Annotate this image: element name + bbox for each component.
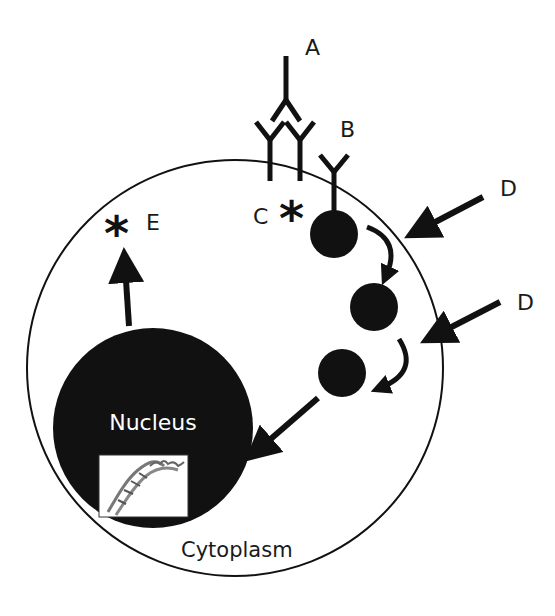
dna-helix-icon: [99, 455, 188, 517]
arrow-d2-icon: [436, 302, 500, 335]
antigen-a-icon: [272, 56, 300, 121]
curved-arrow-2-icon: [380, 339, 406, 388]
arrow-d1-icon: [420, 197, 483, 230]
cytoplasm-label: Cytoplasm: [181, 538, 293, 562]
signal-molecule-2: [350, 283, 398, 331]
cell-diagram: * * Nucleus A B C D D E Cytoplasm: [0, 0, 555, 616]
label-d2: D: [517, 290, 534, 315]
signal-molecule-3: [318, 349, 366, 397]
nucleus-label: Nucleus: [109, 410, 197, 435]
signal-molecule-1: [310, 210, 358, 258]
star-e-icon: *: [104, 205, 129, 261]
receptor-b-icon: [320, 155, 348, 212]
star-c-icon: *: [279, 190, 304, 246]
label-c: C: [253, 204, 268, 229]
label-d1: D: [500, 176, 517, 201]
label-e: E: [146, 210, 160, 235]
arrow-to-e-icon: [125, 265, 129, 326]
label-a: A: [305, 35, 320, 60]
label-b: B: [340, 117, 355, 142]
arrow-to-nucleus-icon: [258, 398, 318, 450]
curved-arrow-1-icon: [367, 227, 391, 276]
